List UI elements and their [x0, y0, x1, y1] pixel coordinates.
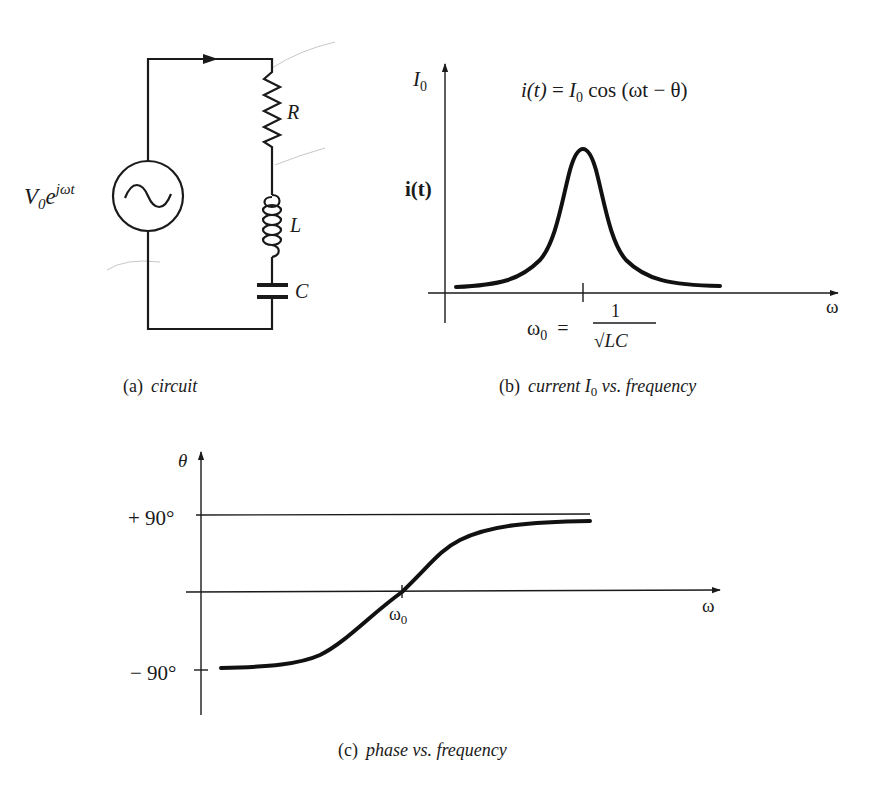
- current-curve: [456, 149, 720, 287]
- capacitor-icon: [257, 283, 288, 299]
- x-axis-c: [186, 590, 720, 592]
- svg-text:ω0=: ω0=: [527, 317, 568, 343]
- minus90-label: − 90°: [130, 661, 177, 685]
- source-label: V0ejωt: [24, 181, 76, 212]
- ac-source-icon: [113, 161, 183, 231]
- fraction-numerator: 1: [611, 301, 620, 321]
- caption-b: (b)current I0 vs. frequency: [499, 376, 696, 399]
- resonance-chart: I0 i(t) i(t) = I0 cos (ωt − θ) ω ω0= 1 √…: [405, 64, 839, 399]
- phase-chart: θ + 90° − 90° ω0 ω (c)phase vs. frequenc…: [128, 450, 720, 761]
- plus90-label: + 90°: [128, 506, 175, 530]
- wire-left-top: [148, 59, 272, 161]
- fraction-denominator: √LC: [594, 330, 628, 351]
- omega0-label-c: ω0: [389, 604, 407, 627]
- phase-curve: [221, 521, 590, 668]
- y-axis-label-b: I0: [412, 67, 427, 94]
- capacitor-label: C: [295, 280, 309, 302]
- resistor-icon: [264, 68, 280, 195]
- inductor-label: L: [289, 214, 301, 236]
- x-axis-label-b: ω: [826, 296, 839, 317]
- caption-a: (a)circuit: [123, 376, 198, 397]
- wire-bottom: [148, 231, 272, 329]
- equation-b: i(t) = I0 cos (ωt − θ): [521, 78, 688, 105]
- plus90-reference-line: [196, 514, 590, 515]
- current-arrow-icon: [203, 54, 218, 64]
- circuit-diagram: V0ejωt R L C (a)circuit: [24, 54, 309, 397]
- resistor-label: R: [286, 101, 299, 123]
- curve-label-b: i(t): [405, 177, 432, 201]
- y-axis-label-c: θ: [178, 450, 187, 471]
- omega0-formula: ω0= 1 √LC: [527, 301, 656, 351]
- inductor-icon: [263, 195, 281, 257]
- caption-c: (c)phase vs. frequency: [338, 740, 507, 761]
- x-axis-label-c: ω: [702, 595, 715, 616]
- figure-canvas: V0ejωt R L C (a)circuit I0 i(t) i(t) = I…: [0, 0, 879, 793]
